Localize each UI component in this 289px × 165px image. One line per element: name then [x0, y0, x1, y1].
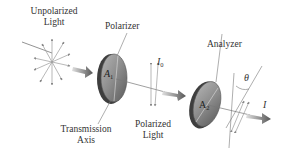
symbol-i0: I0 — [157, 56, 164, 68]
label-unpolarized-line2: Light — [20, 17, 88, 28]
transmitted-light-arrows — [232, 101, 249, 131]
polarizer-leader — [117, 33, 127, 56]
label-polarizer: Polarizer — [105, 21, 139, 32]
beam-arrow-1 — [72, 66, 93, 78]
symbol-i0-sub: 0 — [160, 61, 163, 68]
symbol-a2-sub: 2 — [206, 104, 209, 111]
label-transmission-line1: Transmission — [54, 124, 118, 135]
label-polarized-line2: Light — [128, 130, 178, 141]
theta-arc — [236, 86, 249, 90]
label-transmission-axis: Transmission Axis — [54, 124, 118, 146]
symbol-a2: A2 — [199, 99, 209, 111]
label-transmission-line2: Axis — [54, 135, 118, 146]
beam-arrow-out — [246, 113, 271, 124]
symbol-a1: A1 — [104, 68, 113, 80]
label-polarized-light: Polarized Light — [128, 119, 178, 141]
transmission-axis-leader — [98, 100, 111, 124]
symbol-a1-sub: 1 — [110, 73, 113, 80]
polarized-light-arrows — [151, 65, 158, 106]
label-unpolarized-light: Unpolarized Light — [20, 6, 88, 28]
label-unpolarized-line1: Unpolarized — [20, 6, 88, 17]
unpolarized-light-icon — [34, 39, 70, 85]
incoming-ray — [22, 42, 52, 53]
symbol-theta: θ — [244, 72, 249, 83]
symbol-i-out: I — [263, 99, 266, 110]
label-polarized-line1: Polarized — [128, 119, 178, 130]
beam-arrow-2 — [162, 90, 186, 101]
label-analyzer: Analyzer — [207, 39, 242, 50]
